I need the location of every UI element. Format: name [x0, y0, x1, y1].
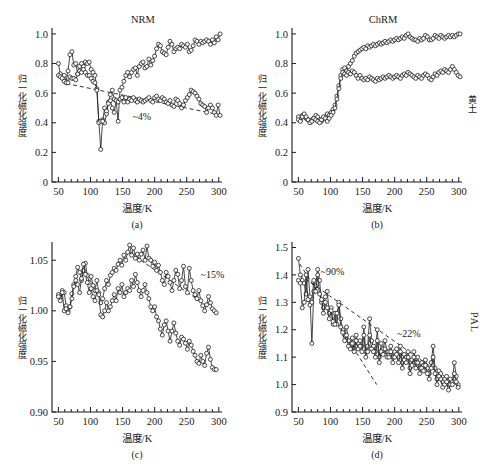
data-marker	[89, 274, 93, 278]
data-marker	[410, 363, 414, 367]
data-marker	[203, 309, 207, 313]
data-marker	[124, 96, 128, 100]
data-marker	[218, 113, 222, 117]
panel-d: 0.91.01.11.21.31.41.550100150200250300~9…	[240, 226, 488, 468]
data-marker	[306, 267, 310, 271]
data-marker	[350, 341, 354, 345]
y-tick-label: 1.3	[275, 297, 288, 308]
data-marker	[197, 97, 201, 101]
data-marker	[160, 333, 164, 337]
x-tick-label: 150	[115, 416, 131, 427]
data-marker	[197, 361, 201, 365]
x-tick-label: 100	[323, 416, 339, 427]
data-marker	[130, 253, 134, 257]
data-marker	[158, 270, 162, 274]
data-marker	[178, 287, 182, 291]
data-marker	[425, 372, 429, 376]
data-marker	[362, 333, 366, 337]
data-marker	[358, 344, 362, 348]
data-marker	[87, 291, 91, 295]
data-marker	[458, 32, 462, 36]
data-marker	[445, 380, 449, 384]
panel-a-plot: 00.20.40.60.81.050100150200250300NRM~4%温…	[0, 0, 248, 232]
data-marker	[183, 341, 187, 345]
data-marker	[81, 262, 85, 266]
data-marker	[139, 252, 143, 256]
panel-c: 0.900.951.001.0550100150200250300~15%温度/…	[0, 226, 248, 468]
panel-title: NRM	[131, 14, 156, 25]
y-tick-label: 0	[43, 177, 48, 188]
data-marker	[156, 263, 160, 267]
data-marker	[112, 293, 116, 297]
data-marker	[323, 300, 327, 304]
data-marker	[135, 73, 139, 77]
data-marker	[60, 291, 64, 295]
y-tick-label: 1.2	[275, 324, 288, 335]
data-marker	[70, 50, 74, 54]
x-tick-label: 150	[355, 416, 371, 427]
x-axis-title: 温度/K	[122, 432, 153, 444]
data-marker	[174, 268, 178, 272]
data-marker	[306, 298, 310, 302]
data-marker	[110, 88, 114, 92]
data-marker	[155, 268, 159, 272]
data-marker	[116, 119, 120, 123]
data-marker	[383, 339, 387, 343]
data-marker	[333, 106, 337, 110]
data-marker	[149, 63, 153, 67]
data-marker	[114, 268, 118, 272]
data-marker	[377, 361, 381, 365]
data-marker	[423, 358, 427, 362]
x-tick-label: 200	[147, 186, 163, 197]
data-marker	[66, 81, 70, 85]
data-marker	[153, 54, 157, 58]
data-marker	[145, 65, 149, 69]
data-marker	[431, 344, 435, 348]
x-tick-label: 200	[387, 416, 403, 427]
axis-spines	[52, 28, 222, 182]
data-marker	[103, 287, 107, 291]
side-label-pal: PAL	[469, 312, 480, 333]
data-marker	[120, 85, 124, 89]
x-tick-label: 250	[179, 186, 195, 197]
data-marker	[368, 317, 372, 321]
data-marker	[366, 344, 370, 348]
data-marker	[199, 299, 203, 303]
data-marker	[131, 246, 135, 250]
y-tick-label: 1.4	[275, 270, 289, 281]
panel-caption: (c)	[131, 449, 142, 461]
x-tick-label: 150	[115, 186, 131, 197]
data-marker	[414, 366, 418, 370]
data-marker	[143, 258, 147, 262]
data-marker	[139, 295, 143, 299]
data-marker	[201, 359, 205, 363]
data-marker	[93, 73, 97, 77]
x-tick-label: 50	[53, 186, 64, 197]
data-marker	[373, 355, 377, 359]
data-marker	[218, 32, 222, 36]
data-marker	[66, 69, 70, 73]
data-marker	[296, 256, 300, 260]
y-tick-label: 0.9	[275, 407, 288, 418]
data-marker	[345, 325, 349, 329]
y-tick-label: 0	[283, 177, 288, 188]
data-marker	[128, 243, 132, 247]
data-marker	[427, 377, 431, 381]
data-marker	[362, 325, 366, 329]
data-marker	[193, 293, 197, 297]
data-marker	[329, 309, 333, 313]
data-marker	[343, 339, 347, 343]
data-marker	[395, 352, 399, 356]
data-marker	[78, 291, 82, 295]
data-marker	[149, 258, 153, 262]
y-tick-label: 0.6	[275, 88, 288, 99]
data-marker	[116, 262, 120, 266]
data-marker	[452, 372, 456, 376]
data-marker	[160, 278, 164, 282]
data-marker	[205, 351, 209, 355]
data-marker	[56, 62, 60, 66]
data-marker	[185, 42, 189, 46]
data-marker	[149, 305, 153, 309]
y-tick-label: 0.2	[35, 147, 48, 158]
data-marker	[214, 311, 218, 315]
